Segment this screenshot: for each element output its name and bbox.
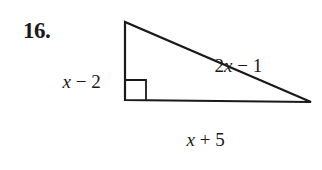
vertical-leg-variable: x (63, 71, 71, 92)
hypotenuse-constant: 1 (253, 55, 263, 76)
base-leg-variable: x (187, 129, 195, 150)
vertical-leg-operator: − (71, 71, 91, 92)
hypotenuse-coefficient: 2 (215, 55, 225, 76)
right-triangle-figure (0, 0, 322, 170)
base-leg-operator: + (195, 129, 215, 150)
hypotenuse-label: 2x − 1 (205, 37, 262, 75)
vertical-leg-constant: 2 (91, 71, 101, 92)
base-leg-constant: 5 (215, 129, 225, 150)
hypotenuse-operator: − (232, 55, 252, 76)
right-angle-marker (125, 80, 146, 100)
base-leg-label: x + 5 (177, 111, 225, 149)
vertical-leg-label: x − 2 (53, 53, 101, 91)
